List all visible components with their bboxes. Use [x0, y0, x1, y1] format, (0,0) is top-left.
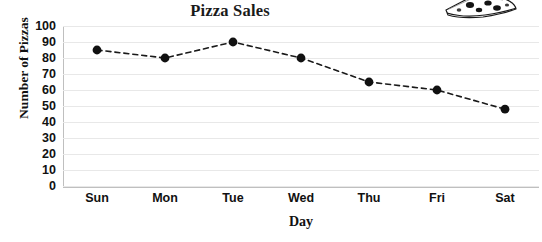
data-point-marker [229, 38, 238, 47]
data-series-line [63, 26, 539, 186]
series-polyline [97, 42, 505, 109]
x-tick-label: Sun [62, 191, 132, 205]
chart-title: Pizza Sales [0, 1, 460, 21]
y-tick-label: 50 [16, 100, 56, 113]
chart-page: Pizza Sales Number of Pizzas 10090807060… [0, 0, 542, 242]
x-axis-title: Day [63, 214, 539, 230]
series-markers [93, 38, 510, 114]
y-tick-label: 30 [16, 132, 56, 145]
y-tick-label: 70 [16, 68, 56, 81]
x-tick-label: Tue [198, 191, 268, 205]
data-point-marker [501, 105, 510, 114]
data-point-marker [93, 46, 102, 55]
data-point-marker [297, 54, 306, 63]
x-tick-label: Mon [130, 191, 200, 205]
y-tick-label: 100 [16, 20, 56, 33]
data-point-marker [161, 54, 170, 63]
y-tick-label: 80 [16, 52, 56, 65]
pizza-slice-icon [443, 0, 519, 24]
gridline [63, 186, 539, 187]
data-point-marker [433, 86, 442, 95]
x-tick-label: Wed [266, 191, 336, 205]
x-tick-label: Sat [470, 191, 540, 205]
y-tick-label: 10 [16, 164, 56, 177]
y-tick-label: 60 [16, 84, 56, 97]
x-tick-label: Fri [402, 191, 472, 205]
y-tick-label: 90 [16, 36, 56, 49]
x-tick-label: Thu [334, 191, 404, 205]
y-tick-label: 20 [16, 148, 56, 161]
y-tick-label: 0 [16, 180, 56, 193]
data-point-marker [365, 78, 374, 87]
y-tick-label: 40 [16, 116, 56, 129]
